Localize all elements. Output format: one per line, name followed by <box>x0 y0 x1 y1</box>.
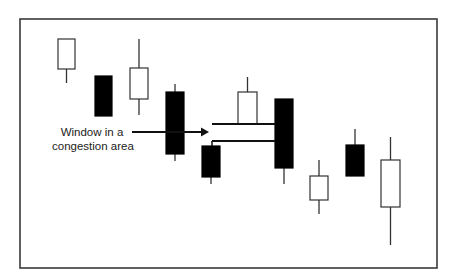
candle-body <box>310 176 328 200</box>
candle-black <box>95 76 112 116</box>
candle-body <box>166 92 184 154</box>
annotation-label: Window in a congestion area <box>52 125 132 153</box>
annotation-line-2: congestion area <box>52 139 132 153</box>
candle-body <box>238 92 257 124</box>
candle-body <box>275 99 293 168</box>
candle-body <box>381 160 400 207</box>
candle-body <box>95 76 112 116</box>
candle-body <box>58 39 75 69</box>
candle-black <box>166 84 184 161</box>
annotation-line-1: Window in a <box>52 125 132 139</box>
candle-body <box>346 145 364 176</box>
candle-body <box>130 68 148 99</box>
candle-body <box>202 146 220 177</box>
